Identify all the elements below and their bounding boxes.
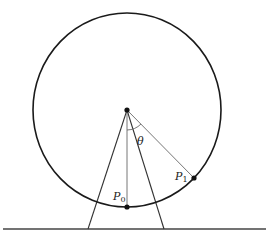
- right-leg: [127, 110, 164, 229]
- point-p1: [191, 175, 196, 180]
- p1-label: P1: [174, 170, 188, 184]
- point-p0: [124, 204, 129, 209]
- p0-label: P0: [112, 190, 126, 204]
- theta-arc: [127, 124, 141, 130]
- theta-label: θ: [137, 135, 144, 148]
- left-leg: [88, 110, 127, 229]
- wheel-diagram: θ P0 P1: [0, 0, 280, 245]
- center-dot: [124, 107, 129, 112]
